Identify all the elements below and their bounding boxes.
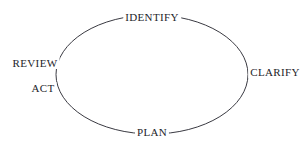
cycle-diagram: IDENTIFY CLARIFY PLAN REVIEW ACT (0, 0, 308, 151)
cycle-node-identify: IDENTIFY (123, 11, 181, 23)
cycle-node-act: ACT (29, 82, 56, 94)
cycle-node-clarify: CLARIFY (248, 66, 302, 78)
cycle-node-plan: PLAN (135, 126, 169, 138)
cycle-ellipse-outline (56, 15, 248, 134)
cycle-node-review: REVIEW (11, 57, 60, 69)
